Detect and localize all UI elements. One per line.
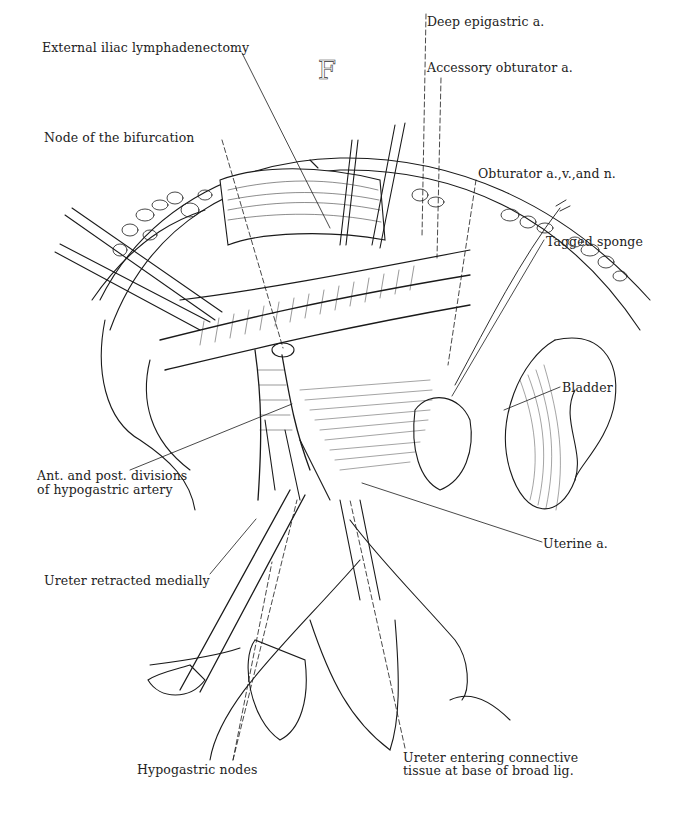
hypogastric-nodes-leader-2 (233, 500, 297, 760)
ureter (148, 490, 305, 695)
pelvic-anatomy-line-drawing (0, 0, 681, 817)
accessory-obturator-leader (437, 78, 441, 258)
bifurcation-node (272, 343, 294, 357)
left-retracted-structures (55, 208, 222, 330)
label-ant-post-divisions: Ant. and post. divisions (37, 469, 187, 482)
ureter-entering-leader (350, 500, 405, 748)
label-ureter-entering-2: tissue at base of broad lig. (403, 764, 574, 777)
ureter-retracted-leader (210, 519, 256, 574)
panel-letter: F (318, 55, 336, 85)
surgical-illustration: F External iliac lymphadenectomyNode of … (0, 0, 681, 817)
hypogastric-artery (255, 350, 330, 500)
label-ureter-retracted-medially: Ureter retracted medially (44, 574, 210, 587)
label-bladder: Bladder (562, 381, 613, 394)
retractor (220, 169, 385, 245)
external-iliac-vessels (160, 250, 470, 370)
label-accessory-obturator-a: Accessory obturator a. (427, 61, 573, 74)
label-deep-epigastric-a: Deep epigastric a. (427, 15, 544, 28)
tagged-sponge-leader (452, 240, 544, 396)
label-hypogastric-nodes: Hypogastric nodes (137, 763, 257, 776)
leader-lines (130, 14, 560, 760)
label-node-of-bifurcation: Node of the bifurcation (44, 131, 194, 144)
uterus (210, 500, 510, 760)
uterine-leader (362, 483, 542, 542)
bladder-wall (506, 338, 616, 510)
label-external-iliac-lymphadenectomy: External iliac lymphadenectomy (42, 41, 249, 54)
label-of-hypogastric-artery: of hypogastric artery (37, 483, 173, 496)
label-tagged-sponge: Tagged sponge (546, 235, 643, 248)
hypogastric-nodes-leader-1 (233, 562, 272, 760)
obturator-fossa (300, 380, 432, 470)
obturator-leader (448, 180, 476, 365)
label-uterine-a: Uterine a. (543, 537, 608, 550)
label-obturator-avn: Obturator a.,v.,and n. (478, 167, 616, 180)
deep-epigastric-leader (422, 14, 426, 237)
